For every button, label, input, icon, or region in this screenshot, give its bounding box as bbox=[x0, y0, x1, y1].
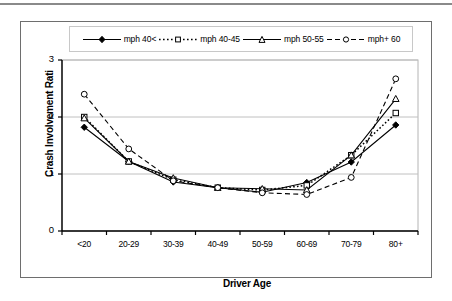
chart-legend: mph 40< mph 40-45 mph 50-55 bbox=[69, 26, 413, 52]
legend-item-mph-40-less: mph 40< bbox=[82, 34, 157, 45]
y-tick-label: 1 bbox=[34, 167, 54, 178]
y-tick-label: 0 bbox=[34, 224, 54, 235]
x-tick-label: 60-69 bbox=[284, 239, 330, 249]
x-tick-label: 70-79 bbox=[328, 239, 374, 249]
legend-marker-circle-icon bbox=[326, 34, 366, 45]
x-tick-label: 20-29 bbox=[106, 239, 152, 249]
legend-marker-square-icon bbox=[158, 34, 198, 45]
y-tick-label: 2 bbox=[34, 110, 54, 121]
x-tick-label: 40-49 bbox=[195, 239, 241, 249]
legend-item-mph-50-55: mph 50-55 bbox=[242, 34, 324, 45]
legend-marker-triangle-icon bbox=[242, 34, 282, 45]
x-axis-title: Driver Age bbox=[21, 278, 452, 289]
legend-label-mph-50-55: mph 50-55 bbox=[284, 34, 324, 44]
legend-item-mph-plus-60: mph+ 60 bbox=[326, 34, 401, 45]
legend-marker-diamond-icon bbox=[82, 34, 122, 45]
y-tick-label: 3 bbox=[34, 53, 54, 64]
x-tick-label: 50-59 bbox=[239, 239, 285, 249]
x-tick-label: 30-39 bbox=[150, 239, 196, 249]
y-axis-title: Crash Involvement Rati bbox=[44, 44, 55, 204]
legend-label-mph-40-45: mph 40-45 bbox=[200, 34, 240, 44]
legend-label-mph-40-less: mph 40< bbox=[124, 34, 157, 44]
x-tick-label: 80+ bbox=[373, 239, 419, 249]
top-horizontal-rule bbox=[0, 3, 452, 5]
legend-item-mph-40-45: mph 40-45 bbox=[158, 34, 240, 45]
x-tick-label: <20 bbox=[61, 239, 107, 249]
legend-label-mph-plus-60: mph+ 60 bbox=[368, 34, 401, 44]
